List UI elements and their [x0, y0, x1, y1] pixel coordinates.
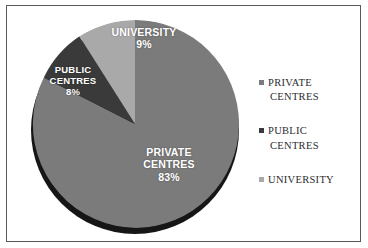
legend-swatch-icon-university — [259, 177, 264, 182]
legend-item-private-centres[interactable]: PRIVATE CENTRES — [259, 76, 363, 104]
legend-item-public-centres[interactable]: PUBLIC CENTRES — [259, 124, 363, 152]
legend-label-public-centres: PUBLIC CENTRES — [268, 124, 319, 152]
legend-label-university-line1: UNIVERSITY — [268, 174, 334, 185]
chart-page: UNIVERSITY 9% PUBLIC CENTRES 8% PRIVATE … — [0, 0, 368, 248]
pie-label-public-centres: PUBLIC CENTRES 8% — [27, 64, 119, 98]
legend-item-university[interactable]: UNIVERSITY — [259, 173, 363, 187]
legend-swatch-icon-private-centres — [259, 80, 264, 85]
legend-label-public-line2: CENTRES — [268, 139, 319, 153]
pie-label-public-value: 8% — [66, 86, 80, 97]
legend-label-public-line1: PUBLIC — [268, 125, 307, 136]
pie-label-private-name2: CENTRES — [143, 158, 195, 170]
pie-label-private-value: 83% — [158, 171, 180, 183]
legend-label-private-line1: PRIVATE — [268, 77, 312, 88]
pie-label-public-name1: PUBLIC — [55, 64, 92, 75]
pie-label-university-name: UNIVERSITY — [111, 26, 176, 38]
legend-label-private-centres: PRIVATE CENTRES — [268, 76, 319, 104]
legend-swatch-icon-public-centres — [259, 128, 264, 133]
pie-label-private-centres: PRIVATE CENTRES 83% — [109, 146, 229, 183]
pie-slices — [31, 20, 239, 228]
pie-chart: UNIVERSITY 9% PUBLIC CENTRES 8% PRIVATE … — [31, 20, 239, 234]
legend-label-private-line2: CENTRES — [268, 90, 319, 104]
pie-label-university: UNIVERSITY 9% — [89, 26, 199, 51]
pie-label-university-value: 9% — [136, 38, 152, 50]
chart-legend: PRIVATE CENTRES PUBLIC CENTRES UNIVERSIT… — [259, 76, 363, 187]
pie-label-private-name1: PRIVATE — [146, 146, 191, 158]
legend-label-university: UNIVERSITY — [268, 173, 334, 187]
chart-frame: UNIVERSITY 9% PUBLIC CENTRES 8% PRIVATE … — [6, 5, 361, 242]
pie-label-public-name2: CENTRES — [50, 75, 97, 86]
